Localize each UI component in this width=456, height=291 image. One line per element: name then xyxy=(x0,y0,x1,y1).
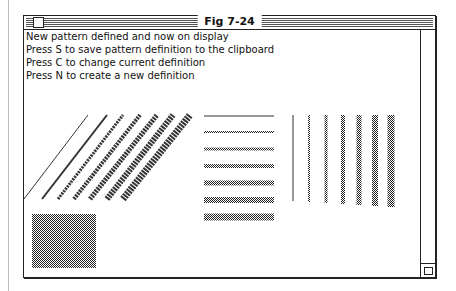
vertical-line-group xyxy=(293,115,395,207)
horizontal-line xyxy=(204,181,274,186)
vertical-line xyxy=(372,115,378,206)
diagonal-line xyxy=(24,115,88,199)
filled-pattern-rectangle xyxy=(32,214,96,268)
vertical-line xyxy=(308,115,310,202)
horizontal-line xyxy=(204,148,274,151)
vertical-line xyxy=(357,115,362,205)
vertical-line xyxy=(341,115,345,204)
vertical-line xyxy=(325,115,328,203)
horizontal-line xyxy=(204,164,274,168)
diagonal-line xyxy=(123,115,190,199)
horizontal-line-group xyxy=(204,116,274,221)
vertical-line xyxy=(388,115,395,207)
horizontal-line xyxy=(204,197,274,203)
horizontal-line xyxy=(204,131,274,133)
horizontal-line xyxy=(204,214,274,221)
diagonal-line-group xyxy=(24,115,190,199)
diagonal-line xyxy=(74,115,140,199)
horizontal-line xyxy=(204,116,274,117)
diagonal-line xyxy=(107,115,173,199)
diagonal-line xyxy=(42,115,107,199)
vertical-line xyxy=(293,115,294,201)
pattern-drawing xyxy=(0,0,456,291)
diagonal-line xyxy=(90,115,157,199)
